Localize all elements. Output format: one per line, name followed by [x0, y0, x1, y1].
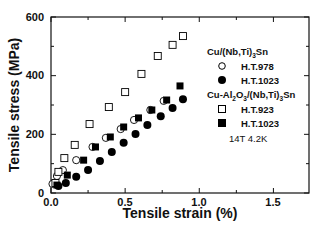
open-circle-data-point — [73, 157, 80, 164]
filled-circle-data-point — [132, 130, 140, 138]
filled-square-data-point — [148, 106, 155, 113]
legend-entry-ht1023-square: H.T.1023 — [241, 118, 279, 129]
filled-square-data-point — [64, 172, 71, 179]
open-square-data-point — [138, 70, 145, 77]
condition-annotation: 14T 4.2K — [229, 133, 268, 144]
filled-circle-data-point — [108, 148, 116, 156]
filled-circle-marker-icon — [218, 76, 226, 84]
filled-circle-data-point — [72, 173, 80, 181]
legend: Cu/(Nb,Ti)3Sn H.T.978 H.T.1023 Cu-Al2O3/… — [207, 46, 295, 144]
filled-circle-data-point — [179, 95, 187, 103]
open-square-data-point — [86, 121, 93, 128]
legend-entry-ht923: H.T.923 — [241, 104, 274, 115]
legend-group1-title: Cu/(Nb,Ti)3Sn — [207, 46, 268, 59]
open-square-data-point — [105, 104, 112, 111]
open-square-data-point — [179, 33, 186, 40]
filled-circle-data-point — [84, 166, 92, 174]
y-tick-label-200: 200 — [26, 128, 44, 140]
x-tick-label-0: 0.0 — [43, 196, 58, 208]
legend-group2-title: Cu-Al2O3/(Nb,Ti)3Sn — [207, 89, 295, 102]
open-square-data-point — [154, 53, 161, 60]
filled-circle-data-point — [169, 104, 177, 112]
filled-square-data-point — [107, 133, 114, 140]
y-tick-label-600: 600 — [26, 11, 44, 23]
open-square-data-point — [169, 41, 176, 48]
open-square-marker-icon — [219, 106, 226, 113]
filled-circle-data-point — [62, 179, 70, 187]
data-points — [49, 33, 187, 190]
filled-square-data-point — [177, 82, 184, 89]
filled-square-data-point — [80, 157, 87, 164]
open-square-data-point — [122, 89, 129, 96]
x-tick-label-1.5: 1.5 — [265, 196, 280, 208]
stress-strain-chart: 0 200 400 600 0.0 0.5 1.0 1.5 Tensile st… — [0, 0, 316, 227]
filled-circle-data-point — [157, 112, 165, 120]
legend-entry-ht1023-circle: H.T.1023 — [241, 75, 279, 86]
y-tick-label-400: 400 — [26, 69, 44, 81]
filled-square-data-point — [92, 143, 99, 150]
filled-square-data-point — [163, 97, 170, 104]
open-square-data-point — [61, 155, 68, 162]
y-axis-title: Tensile stress (MPa) — [6, 38, 22, 172]
filled-square-marker-icon — [218, 119, 226, 127]
filled-square-data-point — [120, 124, 127, 131]
open-square-data-point — [55, 168, 62, 175]
legend-entry-ht978: H.T.978 — [241, 61, 274, 72]
filled-square-data-point — [135, 114, 142, 121]
filled-square-data-point — [53, 182, 60, 189]
open-square-data-point — [71, 141, 78, 148]
filled-circle-data-point — [143, 121, 151, 129]
filled-circle-data-point — [120, 139, 128, 147]
x-axis-title: Tensile strain (%) — [123, 205, 238, 221]
filled-circle-data-point — [96, 157, 104, 165]
open-circle-marker-icon — [219, 63, 226, 70]
